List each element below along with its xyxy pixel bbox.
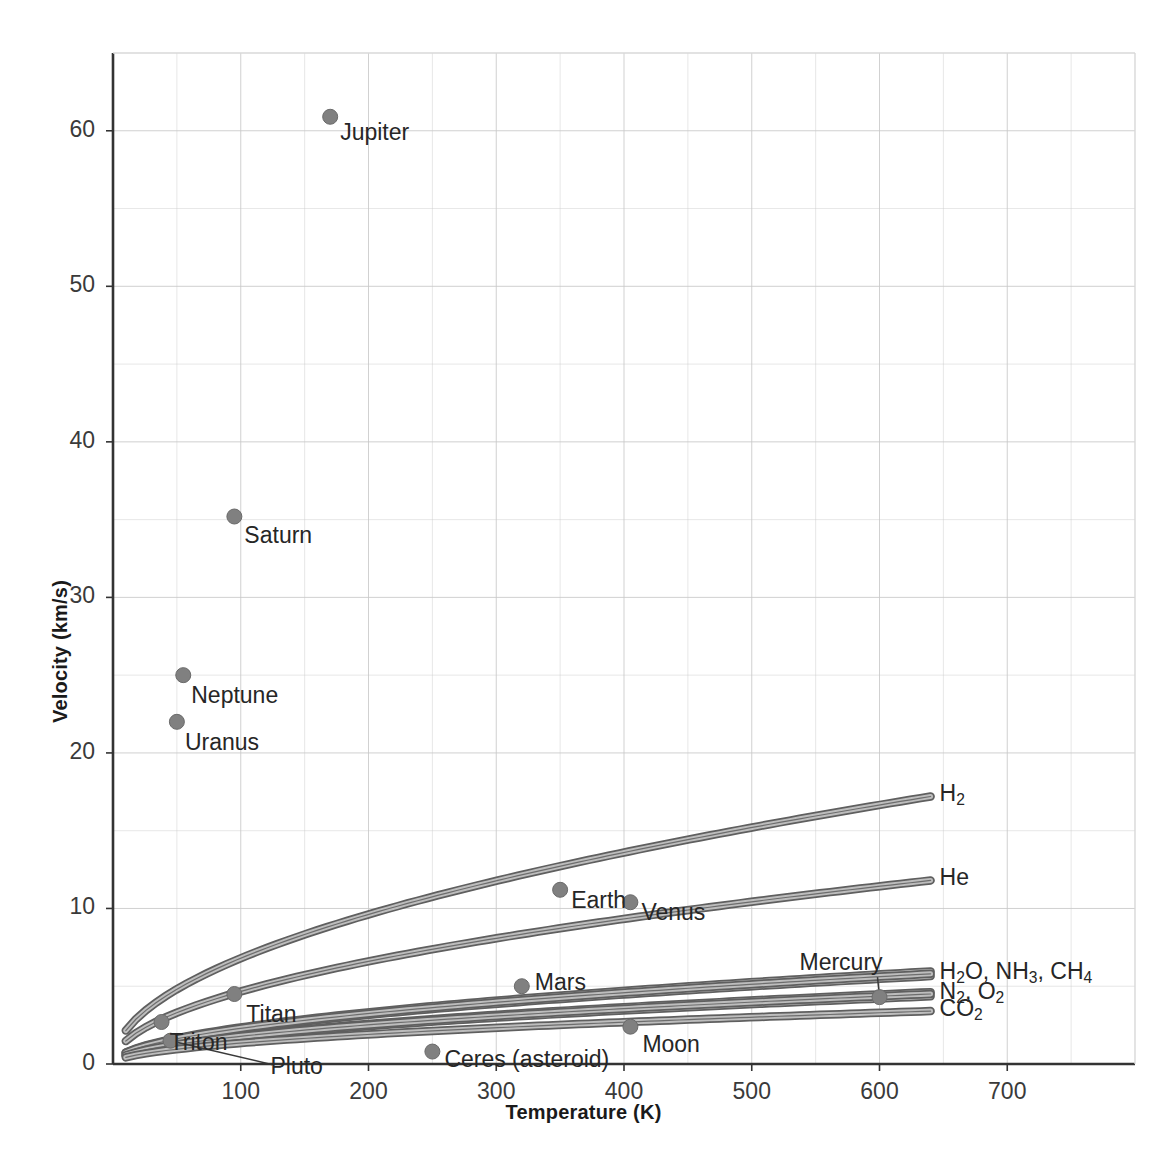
chart-figure: 0102030405060100200300400500600700 Jupit…: [0, 0, 1167, 1151]
point-label-ceres-asteroid: Ceres (asteroid): [444, 1048, 609, 1071]
point-label-neptune: Neptune: [191, 684, 278, 707]
point-label-venus: Venus: [641, 901, 705, 924]
point-label-mercury: Mercury: [800, 951, 883, 974]
point-label-triton: Triton: [170, 1031, 228, 1054]
point-label-uranus: Uranus: [185, 731, 259, 754]
point-label-jupiter: Jupiter: [340, 121, 409, 144]
curve-label-He: He: [940, 866, 969, 889]
point-label-moon: Moon: [642, 1033, 700, 1056]
y-tick-label-60: 60: [35, 116, 95, 143]
y-tick-label-0: 0: [35, 1049, 95, 1076]
y-tick-label-40: 40: [35, 427, 95, 454]
y-tick-label-10: 10: [35, 893, 95, 920]
y-tick-label-50: 50: [35, 271, 95, 298]
point-label-mars: Mars: [535, 971, 586, 994]
curve-label-H2: H2: [940, 782, 965, 808]
x-axis-title: Temperature (K): [0, 1101, 1167, 1124]
data-points: [154, 109, 887, 1059]
point-label-pluto: Pluto: [270, 1055, 322, 1078]
curve-label-CO2: CO2: [940, 997, 983, 1023]
point-label-earth: Earth: [571, 889, 626, 912]
point-label-saturn: Saturn: [244, 524, 312, 547]
point-label-titan: Titan: [246, 1003, 296, 1026]
y-axis-title: Velocity (km/s): [49, 522, 72, 782]
